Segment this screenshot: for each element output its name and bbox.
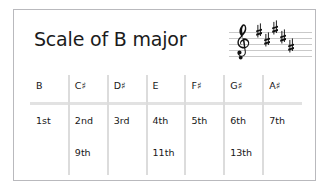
scale-note-name: C♯ bbox=[75, 80, 86, 91]
scale-extension: 13th bbox=[230, 147, 252, 158]
scale-degree: 7th bbox=[269, 115, 285, 126]
key-signature-sharps bbox=[256, 20, 294, 52]
music-staff bbox=[227, 19, 313, 63]
column-separator bbox=[223, 75, 225, 175]
scale-note-name: F♯ bbox=[191, 80, 201, 91]
scale-degree: 6th bbox=[230, 115, 246, 126]
scale-extension: 9th bbox=[75, 147, 91, 158]
scale-degree-table: B1stC♯2nd9thD♯3rdE4th11thF♯5thG♯6th13thA… bbox=[30, 71, 302, 175]
scale-degree: 4th bbox=[153, 115, 169, 126]
scale-extension: 11th bbox=[153, 147, 175, 158]
scale-note-name: B bbox=[36, 80, 43, 91]
column-separator bbox=[262, 75, 264, 175]
scale-note-name: G♯ bbox=[230, 80, 242, 91]
column-separator bbox=[146, 75, 148, 175]
treble-clef-icon bbox=[237, 24, 249, 59]
scale-degree: 5th bbox=[191, 115, 207, 126]
scale-degree: 2nd bbox=[75, 115, 93, 126]
column-separator bbox=[68, 75, 70, 175]
column-separator bbox=[184, 75, 186, 175]
page-title: Scale of B major bbox=[34, 28, 186, 50]
scale-note-name: D♯ bbox=[114, 80, 126, 91]
scale-card: Scale of B major bbox=[13, 9, 316, 181]
column-separator bbox=[107, 75, 109, 175]
scale-note-name: E bbox=[153, 80, 159, 91]
scale-note-name: A♯ bbox=[269, 80, 280, 91]
scale-degree: 1st bbox=[36, 115, 51, 126]
scale-degree: 3rd bbox=[114, 115, 130, 126]
